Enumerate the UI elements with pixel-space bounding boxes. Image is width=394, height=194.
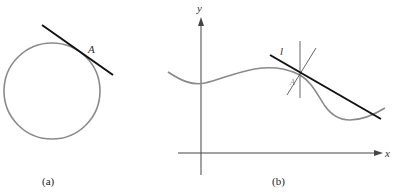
caption-a: (a): [42, 175, 55, 188]
diagram-canvas: A (a) y x l A (b): [0, 0, 394, 194]
tangent-line-a: [42, 25, 113, 75]
point-label-b: A: [289, 78, 295, 87]
y-axis-label: y: [196, 2, 202, 14]
point-label-a: A: [87, 43, 95, 55]
circle: [4, 43, 100, 139]
x-axis-label: x: [384, 147, 390, 159]
y-axis-arrow-icon: [198, 17, 204, 26]
figure-a: A (a): [4, 25, 113, 188]
caption-b: (b): [272, 175, 285, 188]
tangent-line-l: [270, 55, 381, 119]
x-axis-arrow-icon: [374, 150, 383, 156]
line-label-l: l: [280, 45, 283, 57]
figure-b: y x l A (b): [168, 2, 390, 188]
